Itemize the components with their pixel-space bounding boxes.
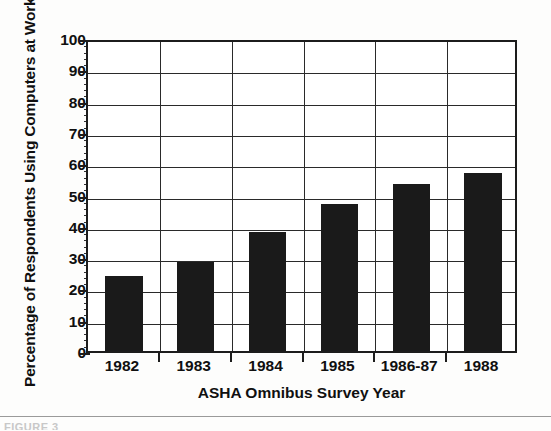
bar-1985 bbox=[321, 204, 358, 351]
gridline-horizontal bbox=[88, 230, 515, 231]
gridline-vertical bbox=[447, 42, 448, 351]
gridline-vertical bbox=[304, 42, 305, 351]
plot-area bbox=[86, 40, 517, 353]
y-tick-major bbox=[80, 353, 90, 355]
figure-caption: FIGURE 3 bbox=[4, 421, 59, 430]
x-tick-label: 1984 bbox=[230, 357, 302, 375]
y-axis-ticks: 0102030405060708090100 bbox=[30, 40, 86, 353]
gridline-horizontal bbox=[88, 292, 515, 293]
gridline-horizontal bbox=[88, 136, 515, 137]
bar-1988 bbox=[464, 173, 501, 351]
x-tick-label: 1983 bbox=[158, 357, 230, 375]
bar-1984 bbox=[249, 232, 286, 351]
gridline-horizontal bbox=[88, 73, 515, 74]
plot-inner bbox=[88, 42, 515, 351]
figure-bar-chart: Percentage of Respondents Using Computer… bbox=[0, 0, 551, 431]
x-tick-label: 1982 bbox=[86, 357, 158, 375]
gridline-horizontal bbox=[88, 199, 515, 200]
footer-divider bbox=[0, 416, 551, 417]
gridline-horizontal bbox=[88, 261, 515, 262]
bar-1982 bbox=[105, 276, 142, 351]
x-tick-mark bbox=[302, 353, 304, 362]
gridline-vertical bbox=[232, 42, 233, 351]
x-tick-mark bbox=[230, 353, 232, 362]
gridline-horizontal bbox=[88, 105, 515, 106]
gridline-horizontal bbox=[88, 324, 515, 325]
x-tick-label: 1988 bbox=[445, 357, 517, 375]
x-tick-mark bbox=[158, 353, 160, 362]
bar-1986-87 bbox=[393, 184, 430, 351]
x-tick-mark bbox=[373, 353, 375, 362]
bar-1983 bbox=[177, 262, 214, 351]
gridline-vertical bbox=[160, 42, 161, 351]
x-axis-title: ASHA Omnibus Survey Year bbox=[86, 384, 517, 402]
x-tick-label: 1986-87 bbox=[373, 357, 445, 375]
gridline-horizontal bbox=[88, 167, 515, 168]
x-tick-label: 1985 bbox=[302, 357, 374, 375]
x-tick-mark bbox=[445, 353, 447, 362]
gridline-vertical bbox=[375, 42, 376, 351]
